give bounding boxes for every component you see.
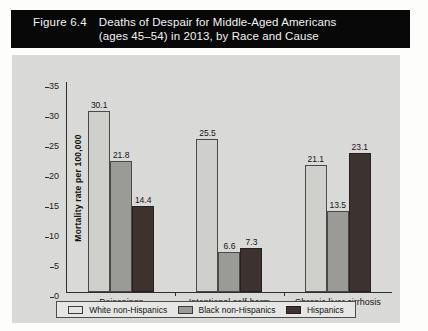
y-tick-mark	[45, 87, 49, 88]
bar-value-label: 6.6	[224, 241, 236, 251]
x-axis-line	[66, 292, 392, 293]
chart-panel: Mortality rate per 100,000 0510152025303…	[12, 55, 400, 323]
bar: 30.1	[88, 111, 110, 292]
legend-label: Black non-Hispanics	[199, 305, 276, 315]
bar-value-label: 23.1	[352, 142, 369, 152]
bar-value-label: 30.1	[91, 100, 108, 110]
legend-swatch	[68, 306, 83, 314]
bar-group: 21.113.523.1Chronic liver cirrhosis	[284, 82, 392, 292]
y-tick-label: 20	[49, 171, 66, 181]
x-axis-group-separator	[284, 292, 285, 296]
legend-item: Black non-Hispanics	[178, 305, 276, 315]
figure-title-text: Deaths of Despair for Middle-Aged Americ…	[99, 15, 337, 43]
bar: 6.6	[218, 252, 240, 292]
figure-title-inner: Figure 6.4 Deaths of Despair for Middle-…	[11, 15, 336, 43]
legend-item: White non-Hispanics	[68, 305, 167, 315]
bar: 21.1	[305, 165, 327, 292]
y-tick-label: 35	[49, 81, 66, 91]
y-tick-label: 5	[54, 261, 66, 271]
bar: 21.8	[110, 161, 132, 292]
legend-swatch	[286, 306, 301, 314]
y-tick-mark	[45, 237, 49, 238]
y-tick-label: 30	[49, 111, 66, 121]
bar: 14.4	[132, 206, 154, 292]
bar-value-label: 25.5	[199, 128, 216, 138]
bar-groups: 30.121.814.4Poisonings25.56.67.3Intentio…	[67, 82, 392, 292]
bar-value-label: 13.5	[330, 200, 347, 210]
legend-item: Hispanics	[286, 305, 344, 315]
y-tick-mark	[45, 177, 49, 178]
bar: 25.5	[196, 139, 218, 292]
bar-value-label: 21.8	[113, 150, 130, 160]
y-tick-label: 0	[54, 291, 66, 301]
y-tick-mark	[50, 267, 54, 268]
y-tick-mark	[45, 147, 49, 148]
x-axis-group-separator	[175, 292, 176, 296]
y-tick-label: 10	[49, 231, 66, 241]
y-tick-label: 25	[49, 141, 66, 151]
legend-swatch	[178, 306, 193, 314]
y-tick-mark	[50, 297, 54, 298]
bar: 23.1	[349, 153, 371, 292]
bar: 7.3	[240, 248, 262, 292]
plot-area: Mortality rate per 100,000 0510152025303…	[66, 82, 392, 293]
bar-value-label: 14.4	[135, 195, 152, 205]
legend-label: Hispanics	[307, 305, 344, 315]
y-tick-mark	[45, 207, 49, 208]
bar-group: 25.56.67.3Intentional self-harm	[175, 82, 283, 292]
y-tick-label: 15	[49, 201, 66, 211]
bar-group: 30.121.814.4Poisonings	[67, 82, 175, 292]
figure-title-bar: Figure 6.4 Deaths of Despair for Middle-…	[11, 10, 410, 48]
chart-legend: White non-HispanicsBlack non-HispanicsHi…	[56, 301, 356, 318]
figure-number: Figure 6.4	[33, 15, 87, 28]
bar: 13.5	[327, 211, 349, 292]
legend-label: White non-Hispanics	[89, 305, 167, 315]
bar-value-label: 21.1	[308, 154, 325, 164]
bar-value-label: 7.3	[246, 237, 258, 247]
y-tick-mark	[45, 117, 49, 118]
